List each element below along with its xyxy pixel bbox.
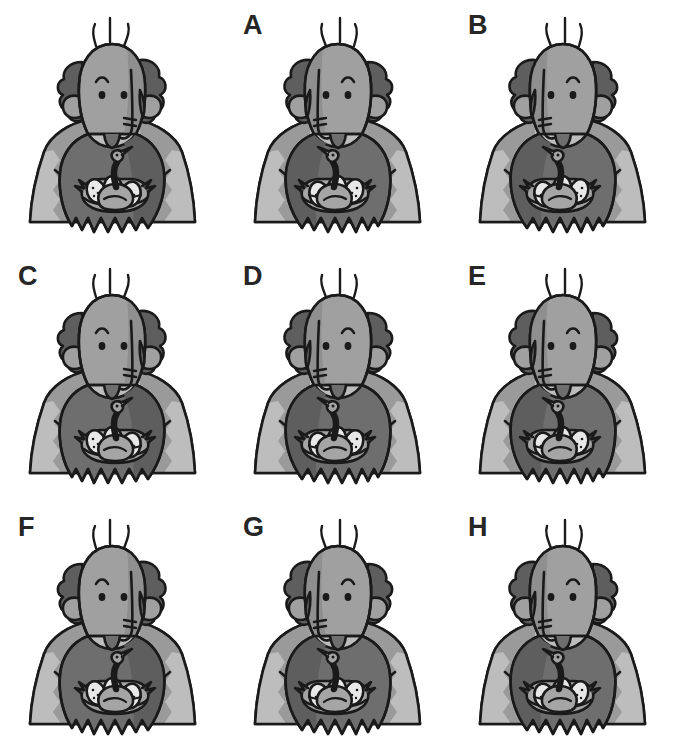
duck-neck: [114, 413, 117, 438]
ear-left: [595, 96, 612, 118]
eye-left: [99, 91, 106, 99]
antenna-hair-right: [124, 24, 129, 46]
antenna-hair-left: [579, 24, 582, 46]
eye-left: [345, 91, 352, 99]
ear-right: [144, 347, 161, 369]
ear-right: [289, 96, 306, 118]
grid-cell-d[interactable]: D: [225, 251, 450, 502]
eye-right: [323, 593, 330, 601]
antenna-hair-right: [124, 526, 129, 548]
duck-eye: [557, 405, 560, 408]
grid-cell-f[interactable]: F: [0, 502, 225, 753]
duck-eye: [116, 656, 119, 659]
antenna-hair-right: [546, 24, 551, 46]
duck-neck: [558, 664, 561, 689]
duck-eye: [332, 405, 335, 408]
duck-neck: [114, 664, 117, 689]
antenna-hair-left: [93, 24, 96, 46]
duck-eye: [116, 405, 119, 408]
eye-right: [121, 342, 128, 350]
eye-right: [548, 593, 555, 601]
cell-label-g: G: [243, 514, 264, 541]
cell-label-e: E: [468, 263, 486, 290]
cell-label-d: D: [243, 263, 263, 290]
ear-left: [595, 347, 612, 369]
ear-left: [370, 96, 387, 118]
duck-neck: [558, 413, 561, 438]
duck-neck: [114, 162, 117, 187]
eye-left: [99, 342, 106, 350]
grid-cell-g[interactable]: G: [225, 502, 450, 753]
duck-eye: [332, 656, 335, 659]
eye-left: [570, 91, 577, 99]
antenna-hair-right: [321, 275, 326, 297]
ear-right: [514, 598, 531, 620]
figure-container-reference: [0, 0, 225, 251]
grid-cell-b[interactable]: B: [450, 0, 675, 251]
cell-label-c: C: [18, 263, 38, 290]
eye-left: [99, 593, 106, 601]
cell-label-b: B: [468, 12, 488, 39]
grid-cell-reference[interactable]: [0, 0, 225, 251]
eye-left: [570, 342, 577, 350]
grid-cell-e[interactable]: E: [450, 251, 675, 502]
eye-right: [323, 91, 330, 99]
antenna-hair-left: [354, 275, 357, 297]
ear-left: [370, 347, 387, 369]
eye-right: [548, 342, 555, 350]
eye-left: [570, 593, 577, 601]
duck-neck: [333, 413, 336, 438]
ear-right: [144, 598, 161, 620]
duck-eye: [116, 154, 119, 157]
ear-right: [144, 96, 161, 118]
antenna-hair-right: [321, 24, 326, 46]
bearded-man-figure: [0, 0, 225, 251]
cell-label-a: A: [243, 12, 263, 39]
antenna-hair-left: [579, 275, 582, 297]
eye-right: [323, 342, 330, 350]
duck-eye: [557, 154, 560, 157]
eye-left: [345, 593, 352, 601]
ear-left: [63, 347, 80, 369]
antenna-hair-left: [93, 526, 96, 548]
eye-right: [121, 593, 128, 601]
ear-left: [595, 598, 612, 620]
antenna-hair-right: [321, 526, 326, 548]
antenna-hair-left: [579, 526, 582, 548]
eye-right: [548, 91, 555, 99]
duck-neck: [333, 162, 336, 187]
grid-cell-c[interactable]: C: [0, 251, 225, 502]
cell-label-h: H: [468, 514, 488, 541]
ear-left: [63, 96, 80, 118]
grid-cell-a[interactable]: A: [225, 0, 450, 251]
duck-neck: [333, 664, 336, 689]
antenna-hair-right: [546, 275, 551, 297]
ear-right: [289, 598, 306, 620]
antenna-hair-left: [93, 275, 96, 297]
ear-right: [289, 347, 306, 369]
antenna-hair-right: [546, 526, 551, 548]
duck-eye: [557, 656, 560, 659]
cell-label-f: F: [18, 514, 35, 541]
ear-left: [63, 598, 80, 620]
ear-right: [514, 96, 531, 118]
duck-neck: [558, 162, 561, 187]
antenna-hair-right: [124, 275, 129, 297]
eye-left: [345, 342, 352, 350]
duck-eye: [332, 154, 335, 157]
grid-cell-h[interactable]: H: [450, 502, 675, 753]
antenna-hair-left: [354, 24, 357, 46]
ear-right: [514, 347, 531, 369]
eye-right: [121, 91, 128, 99]
ear-left: [370, 598, 387, 620]
antenna-hair-left: [354, 526, 357, 548]
figure-grid: A: [0, 0, 675, 753]
